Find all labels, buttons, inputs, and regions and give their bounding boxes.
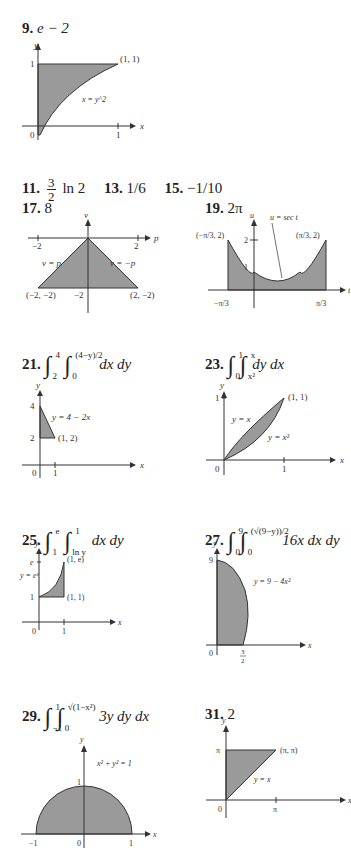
graph-27: y x 9 0 3 2 y = 9 − 4x² — [200, 560, 350, 670]
svg-text:1: 1 — [53, 468, 58, 478]
svg-text:p: p — [153, 233, 159, 243]
graph-19: u t u = sec t (−π/3, 2) (π/3, 2) 2 1 −π/… — [200, 218, 350, 318]
answer-29: 29. ∫1−1 ∫√(1−x²)0 3y dy dx — [22, 704, 149, 731]
graph-31: y x π (π, π) y = x 0 π — [200, 730, 350, 840]
svg-text:0: 0 — [30, 130, 35, 140]
svg-text:0: 0 — [218, 805, 222, 814]
svg-text:−2: −2 — [32, 241, 42, 251]
problem-number: 11. — [22, 180, 40, 196]
svg-text:e: e — [30, 558, 34, 567]
problem-number: 19. — [205, 200, 224, 216]
answer-23: 23. ∫10 ∫xx² dy dx — [205, 352, 284, 379]
svg-text:(1, 1): (1, 1) — [288, 392, 308, 402]
integrand: 16x dx dy — [282, 532, 339, 548]
answer-value: ln 2 — [62, 180, 85, 196]
svg-text:−2: −2 — [74, 290, 84, 300]
differential: dx dy — [99, 356, 131, 372]
svg-text:y = 4 − 2x: y = 4 − 2x — [51, 412, 90, 422]
integral-sign: ∫1−1 — [45, 704, 52, 731]
graph-17: v p −2 2 −2 v = p v = −p (−2, −2) (2, −2… — [20, 218, 170, 318]
svg-text:(2, −2): (2, −2) — [130, 290, 155, 300]
svg-text:2: 2 — [244, 236, 248, 245]
svg-text:(1, e): (1, e) — [67, 555, 84, 564]
integral-sign: ∫42 — [45, 352, 52, 379]
svg-text:0: 0 — [209, 649, 213, 658]
svg-text:1: 1 — [215, 393, 220, 403]
svg-text:1: 1 — [30, 59, 35, 69]
differential: dx dy — [92, 532, 124, 548]
svg-text:x: x — [307, 641, 312, 650]
problem-number: 23. — [205, 356, 224, 372]
svg-text:y: y — [221, 716, 226, 725]
svg-text:0: 0 — [215, 464, 220, 474]
svg-text:y = x²: y = x² — [267, 432, 290, 442]
problem-number: 15. — [165, 180, 184, 196]
svg-text:v = p: v = p — [42, 258, 62, 268]
svg-text:1: 1 — [244, 263, 248, 272]
answer-value: e − 2 — [37, 20, 69, 36]
svg-text:π/3: π/3 — [316, 299, 326, 308]
svg-text:(1, 2): (1, 2) — [58, 433, 78, 443]
svg-text:v = −p: v = −p — [110, 258, 136, 268]
answer-21: 21. ∫42 ∫(4−y)/20 dx dy — [22, 352, 131, 379]
answer-17: 17. 8 — [22, 200, 52, 217]
problem-number: 29. — [22, 708, 41, 724]
svg-text:−π/3: −π/3 — [214, 299, 229, 308]
svg-text:u: u — [250, 211, 254, 220]
svg-text:y: y — [219, 380, 224, 390]
answers-11-13-15: 11. 32 ln 2 13. 1/6 15. −1/10 — [22, 176, 222, 203]
answer-value: 1/6 — [127, 180, 146, 196]
problem-number: 21. — [22, 356, 41, 372]
graph-29: y x 1 x² + y² = 1 −1 0 1 — [15, 740, 175, 850]
svg-text:−1: −1 — [29, 839, 38, 848]
svg-text:x: x — [339, 455, 344, 465]
svg-text:π: π — [273, 805, 277, 814]
problem-number: 13. — [104, 180, 123, 196]
integrand: 3y dy dx — [99, 708, 149, 724]
svg-text:1: 1 — [30, 593, 34, 602]
answer-value: −1/10 — [187, 180, 222, 196]
integral-sign: ∫1ln y — [64, 528, 71, 555]
svg-text:2: 2 — [134, 241, 139, 251]
svg-text:1: 1 — [77, 778, 81, 787]
integral-sign: ∫e1 — [45, 528, 52, 555]
svg-text:x: x — [347, 796, 351, 805]
graph-9: y x 1 0 1 (1, 1) x = y^2 — [20, 40, 150, 145]
svg-text:y = x: y = x — [231, 414, 251, 424]
svg-text:3: 3 — [241, 648, 245, 656]
problem-number: 31. — [205, 706, 224, 722]
differential: dy dx — [252, 356, 284, 372]
svg-text:1: 1 — [282, 464, 287, 474]
fraction: 32 — [47, 176, 56, 203]
svg-text:x² + y² = 1: x² + y² = 1 — [96, 759, 132, 768]
svg-text:0: 0 — [77, 839, 81, 848]
integral-sign: ∫xx² — [240, 352, 247, 379]
answer-value: 2 — [228, 706, 236, 722]
svg-text:(−2, −2): (−2, −2) — [26, 290, 56, 300]
answer-27: 27. ∫90 ∫(√(9−y))/20 16x dx dy — [205, 528, 340, 555]
svg-text:x: x — [139, 460, 144, 470]
svg-text:y: y — [212, 539, 217, 548]
svg-text:y: y — [35, 380, 40, 390]
svg-text:π: π — [216, 746, 220, 755]
integral-sign: ∫(√(9−y))/20 — [240, 528, 247, 555]
svg-text:y = eˣ: y = eˣ — [19, 571, 40, 580]
svg-text:9: 9 — [209, 556, 213, 565]
svg-text:y: y — [79, 735, 84, 744]
svg-text:1: 1 — [62, 627, 66, 636]
graph-23: y x 1 0 1 (1, 1) y = x y = x² — [200, 390, 350, 490]
answer-9: 9. e − 2 — [22, 20, 69, 37]
svg-text:2: 2 — [241, 657, 245, 665]
svg-text:0: 0 — [32, 627, 36, 636]
answer-31: 31. 2 — [205, 706, 235, 723]
svg-text:v: v — [84, 210, 88, 220]
problem-number: 9. — [22, 20, 33, 36]
svg-text:x = y^2: x = y^2 — [81, 95, 106, 104]
integral-sign: ∫(4−y)/20 — [64, 352, 71, 379]
svg-text:(1, 1): (1, 1) — [67, 593, 85, 602]
problem-number: 17. — [22, 200, 41, 216]
svg-text:1: 1 — [116, 130, 121, 140]
graph-25: y x e 1 0 1 y = eˣ (1, e) (1, 1) — [20, 560, 150, 650]
svg-text:x: x — [152, 830, 157, 839]
svg-text:u = sec t: u = sec t — [270, 213, 299, 222]
